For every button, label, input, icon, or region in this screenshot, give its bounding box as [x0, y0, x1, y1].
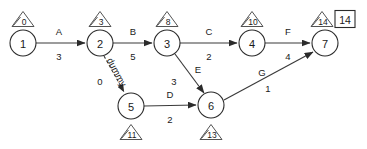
edge-c: C2 — [180, 26, 237, 62]
node-2[interactable]: 2 — [87, 30, 113, 56]
edge-weight-a: 3 — [56, 51, 61, 62]
edge-a: A3 — [36, 26, 85, 62]
time-marker-value: 0 — [22, 17, 27, 27]
time-marker-n4: 10 — [241, 12, 263, 28]
time-marker-n6: 13 — [200, 125, 222, 141]
node-label-5: 5 — [128, 101, 134, 113]
edge-line-d — [144, 105, 196, 106]
time-marker-n5: 11 — [120, 125, 142, 141]
node-label-3: 3 — [164, 38, 170, 50]
node-label-7: 7 — [322, 38, 328, 50]
node-1[interactable]: 1 — [10, 30, 36, 56]
time-marker-n3: 8 — [156, 12, 178, 28]
edge-weight-g: 1 — [265, 83, 270, 94]
edge-label-dummy: dummy — [105, 56, 129, 89]
node-4[interactable]: 4 — [239, 30, 265, 56]
edge-label-c: C — [206, 26, 213, 37]
edge-weight-d: 2 — [167, 114, 172, 125]
edge-label-g: G — [258, 67, 265, 78]
edge-weight-dummy: 0 — [97, 76, 102, 87]
node-label-2: 2 — [97, 38, 103, 50]
value-box-text: 14 — [339, 14, 351, 26]
time-marker-n2: 3 — [89, 12, 111, 28]
edge-e: E3 — [171, 54, 204, 93]
time-marker-value: 13 — [207, 130, 217, 140]
node-3[interactable]: 3 — [154, 30, 180, 56]
time-marker-value: 3 — [99, 17, 104, 27]
time-marker-value: 11 — [128, 130, 137, 140]
edge-label-f: F — [285, 26, 291, 37]
node-label-4: 4 — [249, 38, 255, 50]
node-5[interactable]: 5 — [118, 93, 144, 119]
edge-weight-c: 2 — [206, 51, 211, 62]
edge-d: D2 — [144, 89, 196, 125]
time-marker-value: 14 — [318, 17, 328, 27]
edge-label-d: D — [167, 89, 174, 100]
node-7[interactable]: 7 — [312, 30, 338, 56]
node-label-1: 1 — [20, 38, 26, 50]
edge-weight-e: 3 — [171, 76, 176, 87]
node-label-6: 6 — [208, 100, 214, 112]
edge-weight-f: 4 — [285, 51, 290, 62]
edge-g: G1 — [224, 52, 313, 100]
time-marker-n1: 0 — [12, 12, 34, 28]
edge-f: F4 — [265, 26, 310, 62]
edge-label-b: B — [130, 26, 136, 37]
time-marker-value: 10 — [248, 17, 258, 27]
value-box: 14 — [335, 11, 355, 28]
edge-label-a: A — [56, 26, 63, 37]
edge-dummy: dummy0 — [97, 56, 129, 92]
edge-weight-b: 5 — [130, 51, 135, 62]
time-marker-n7: 14 — [311, 12, 333, 28]
time-marker-value: 8 — [166, 17, 171, 27]
network-diagram: A3B5C2F4E3D2G1dummy0 1234567 03810141113… — [0, 0, 367, 149]
network-diagram-canvas: A3B5C2F4E3D2G1dummy0 1234567 03810141113… — [0, 0, 367, 149]
edge-b: B5 — [113, 26, 152, 62]
node-6[interactable]: 6 — [198, 92, 224, 118]
value-boxes-layer: 14 — [335, 11, 355, 28]
edge-label-e: E — [195, 64, 201, 75]
